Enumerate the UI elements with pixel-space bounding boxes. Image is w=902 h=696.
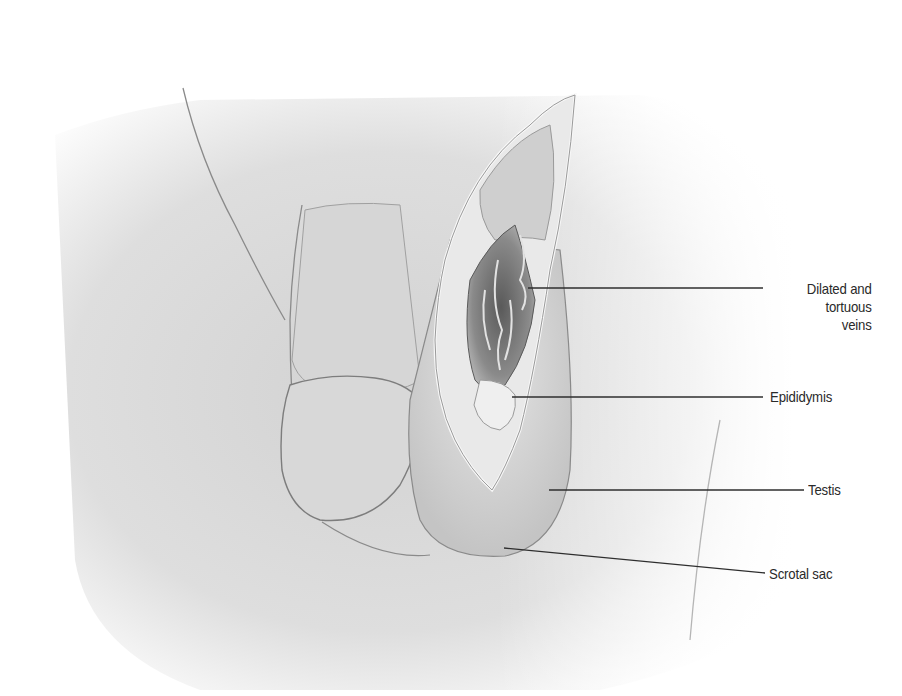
label-veins-line-3: veins	[807, 316, 872, 334]
label-scrotal-sac: Scrotal sac	[769, 565, 832, 583]
label-epididymis: Epididymis	[770, 388, 832, 406]
label-veins-line-2: tortuous	[807, 298, 872, 316]
label-testis: Testis	[808, 481, 841, 499]
label-dilated-tortuous-veins: Dilated and tortuous veins	[807, 280, 872, 334]
anatomical-illustration	[0, 0, 902, 696]
label-veins-line-1: Dilated and	[807, 280, 872, 298]
